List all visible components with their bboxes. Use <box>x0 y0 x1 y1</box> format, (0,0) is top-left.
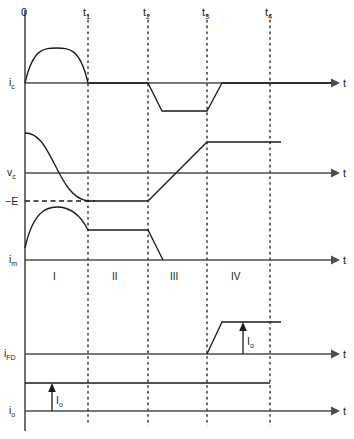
region-label-4: IV <box>231 271 241 282</box>
axis-arrow-label-io: t <box>343 405 346 417</box>
region-label-3: III <box>170 271 178 282</box>
axis-arrow-ic <box>331 79 340 88</box>
region-labels: I II III IV <box>53 271 241 282</box>
annotation-io-output: Io <box>48 383 63 411</box>
time-marker-lines <box>88 14 270 426</box>
axis-label-vc: vc <box>7 166 16 180</box>
minus-e-label: −E <box>5 195 18 207</box>
annotation-io-ifd-label: Io <box>247 335 254 349</box>
plot-capacitor-current: t ic <box>9 48 346 111</box>
time-tick-labels: 0 t1 t2 t3 t4 <box>21 6 272 21</box>
axis-arrow-im <box>331 256 340 265</box>
waveform-ic <box>25 48 331 111</box>
waveform-figure: 0 t1 t2 t3 t4 t ic <box>0 0 354 439</box>
annotation-io-ifd: Io <box>239 322 254 354</box>
region-label-2: II <box>112 271 118 282</box>
axis-label-io: io <box>9 404 15 418</box>
waveform-vc <box>25 133 281 201</box>
axis-arrow-label-vc: t <box>343 167 346 179</box>
plot-magnetizing-current: t im <box>9 207 346 267</box>
plot-output-current: t io Io <box>9 383 346 418</box>
plot-freewheel-diode-current: t iFD Io <box>4 322 346 361</box>
region-label-1: I <box>53 271 56 282</box>
axis-label-ic: ic <box>9 76 15 90</box>
tick-label-t1: t1 <box>83 6 90 21</box>
tick-label-origin: 0 <box>21 6 27 18</box>
axis-arrow-label-im: t <box>343 254 346 266</box>
axis-label-im: im <box>9 253 17 267</box>
plot-capacitor-voltage: t vc −E <box>5 133 346 207</box>
axis-arrow-label-ic: t <box>343 77 346 89</box>
tick-label-t4: t4 <box>265 6 272 21</box>
tick-label-t2: t2 <box>143 6 150 21</box>
annotation-io-output-label: Io <box>56 394 63 408</box>
axis-arrow-vc <box>331 169 340 178</box>
axis-label-ifd: iFD <box>4 347 16 361</box>
waveform-im <box>25 207 163 260</box>
tick-label-t3: t3 <box>202 6 209 21</box>
axis-arrow-ifd <box>331 350 340 359</box>
axis-arrow-label-ifd: t <box>343 348 346 360</box>
axis-arrow-io <box>331 407 340 416</box>
